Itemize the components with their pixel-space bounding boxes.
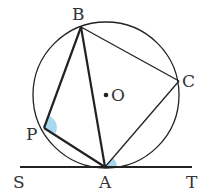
- label-C: C: [182, 71, 195, 91]
- label-O: O: [111, 85, 125, 105]
- label-B: B: [72, 4, 85, 24]
- label-T: T: [186, 172, 198, 192]
- label-A: A: [98, 172, 112, 192]
- geometry-diagram: B C O P A S T: [0, 0, 214, 195]
- segment-BC: [81, 27, 179, 81]
- label-S: S: [13, 172, 25, 192]
- segment-BA: [81, 27, 105, 167]
- center-point-O: [104, 93, 109, 98]
- label-P: P: [26, 124, 37, 144]
- segment-BP: [44, 27, 81, 128]
- diagram-canvas: B C O P A S T: [0, 0, 214, 195]
